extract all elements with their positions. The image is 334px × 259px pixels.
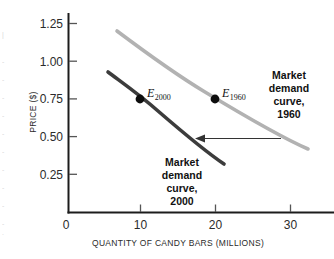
equilibrium-point-2000: E2000 [136, 86, 171, 103]
y-tick-label: 0.50 [40, 130, 64, 144]
curve-annotation-1960-line2: demand [269, 82, 309, 94]
curve-annotation-2000-line1: Market [165, 156, 199, 168]
demand-curve-2000 [108, 72, 224, 164]
y-axis-ticks [69, 24, 77, 175]
curve-annotation-1960: Market demand curve, 1960 [269, 69, 309, 120]
figure-container: | - - - - - - - - - - . 1.25 1.00 0.75 0… [0, 0, 334, 259]
curve-annotation-2000: Market demand curve, 2000 [162, 156, 202, 207]
x-axis-tick-labels: 0 10 20 30 [63, 218, 298, 232]
curve-annotation-1960-line4: 1960 [277, 108, 301, 120]
y-tick-label: 1.25 [40, 17, 64, 31]
demand-shift-chart: 1.25 1.00 0.75 0.50 0.25 0 10 20 30 QUAN… [0, 0, 334, 259]
equilibrium-point-1960: E1960 [211, 86, 246, 103]
y-tick-label: 0.75 [40, 92, 64, 106]
equilibrium-label-1960: E1960 [221, 86, 246, 102]
x-axis-ticks [141, 205, 291, 213]
curve-annotation-2000-line3: curve, [167, 182, 198, 194]
y-tick-label: 1.00 [40, 55, 64, 69]
x-tick-label: 10 [134, 218, 148, 232]
y-axis-tick-labels: 1.25 1.00 0.75 0.50 0.25 [40, 17, 64, 182]
x-axis-title: QUANTITY OF CANDY BARS (MILLIONS) [92, 238, 264, 248]
curve-annotation-1960-line1: Market [272, 69, 306, 81]
x-tick-label: 30 [284, 218, 298, 232]
x-tick-label: 20 [209, 218, 223, 232]
curve-annotation-1960-line3: curve, [274, 95, 305, 107]
leftward-shift-arrow [195, 135, 281, 143]
y-axis-title: PRICE ($) [28, 91, 38, 132]
curve-annotation-2000-line2: demand [162, 169, 202, 181]
curve-annotation-2000-line4: 2000 [170, 195, 194, 207]
x-tick-label: 0 [63, 218, 70, 232]
equilibrium-label-2000: E2000 [146, 86, 171, 102]
y-tick-label: 0.25 [40, 168, 64, 182]
